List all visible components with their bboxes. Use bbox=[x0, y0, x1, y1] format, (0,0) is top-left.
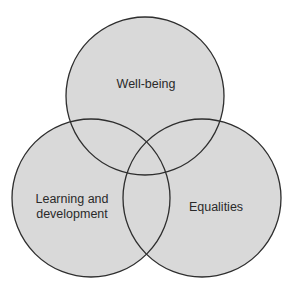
well-being-label-text: Well-being bbox=[117, 77, 176, 91]
equalities-label: Equalities bbox=[189, 200, 243, 215]
learning-label-line-2: development bbox=[36, 207, 109, 222]
venn-diagram: Well-being Learning and development Equa… bbox=[0, 0, 292, 293]
learning-label-line-1: Learning and bbox=[36, 192, 109, 207]
well-being-label: Well-being bbox=[117, 77, 176, 92]
venn-diagram-graphic bbox=[0, 0, 292, 293]
learning-and-development-label: Learning and development bbox=[36, 192, 109, 222]
circle-fills bbox=[12, 17, 281, 277]
equalities-label-text: Equalities bbox=[189, 200, 243, 214]
